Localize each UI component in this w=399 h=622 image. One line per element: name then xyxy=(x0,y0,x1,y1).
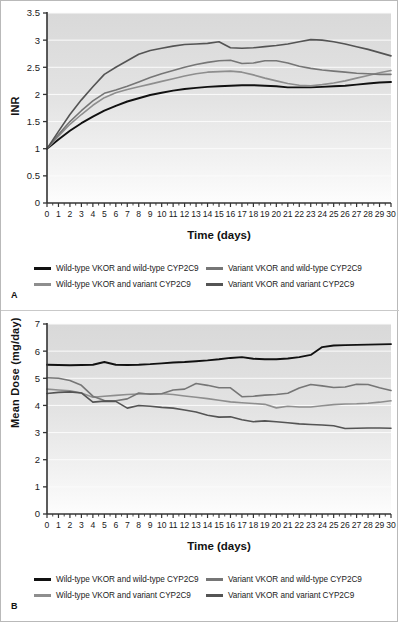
svg-text:18: 18 xyxy=(249,520,259,530)
svg-text:8: 8 xyxy=(136,520,141,530)
legend-item-2: Variant VKOR and wild-type CYP2C9 xyxy=(206,576,384,584)
svg-text:11: 11 xyxy=(169,520,178,530)
legend-label: Variant VKOR and variant CYP2C9 xyxy=(228,592,354,600)
panel-a-letter: A xyxy=(11,290,18,300)
svg-text:2: 2 xyxy=(35,89,40,100)
svg-text:30: 30 xyxy=(386,209,396,219)
svg-text:29: 29 xyxy=(375,520,385,530)
panel-divider xyxy=(1,310,399,311)
legend-swatch-icon xyxy=(34,283,51,286)
legend-swatch-icon xyxy=(206,267,223,270)
svg-text:17: 17 xyxy=(237,520,247,530)
svg-text:14: 14 xyxy=(203,520,213,530)
svg-text:19: 19 xyxy=(260,209,270,219)
svg-text:1: 1 xyxy=(56,520,61,530)
x-axis-title: Time (days) xyxy=(187,229,251,241)
svg-text:6: 6 xyxy=(113,520,118,530)
svg-text:5: 5 xyxy=(102,520,107,530)
legend-item-4: Variant VKOR and variant CYP2C9 xyxy=(206,592,384,600)
svg-text:21: 21 xyxy=(283,520,293,530)
y-axis-ticks: 00.511.522.533.5 xyxy=(27,7,47,208)
svg-text:3: 3 xyxy=(79,520,84,530)
svg-text:4: 4 xyxy=(90,209,95,219)
svg-text:23: 23 xyxy=(306,209,316,219)
legend-swatch-icon xyxy=(34,578,51,581)
svg-text:3: 3 xyxy=(79,209,84,219)
svg-text:10: 10 xyxy=(157,520,167,530)
x-axis-ticks: 0123456789101112131415161718192021222324… xyxy=(45,514,396,530)
svg-text:1.5: 1.5 xyxy=(27,116,40,127)
legend-item-2: Variant VKOR and wild-type CYP2C9 xyxy=(206,265,384,273)
svg-text:0.5: 0.5 xyxy=(27,170,40,181)
svg-text:3.5: 3.5 xyxy=(27,7,40,18)
x-axis-ticks: 0123456789101112131415161718192021222324… xyxy=(45,203,396,219)
panel-b-letter: B xyxy=(11,601,18,611)
svg-text:24: 24 xyxy=(317,520,327,530)
svg-text:8: 8 xyxy=(136,209,141,219)
svg-text:24: 24 xyxy=(317,209,327,219)
svg-text:9: 9 xyxy=(148,520,153,530)
chart-b-svg: 0123456701234567891011121314151617181920… xyxy=(1,312,399,562)
svg-text:0: 0 xyxy=(45,520,50,530)
panel-b: Mean Dose (mg/day) 012345670123456789101… xyxy=(1,312,399,622)
svg-text:15: 15 xyxy=(214,520,224,530)
legend-item-1: Wild-type VKOR and wild-type CYP2C9 xyxy=(34,265,206,273)
svg-text:25: 25 xyxy=(329,209,339,219)
x-axis-title: Time (days) xyxy=(187,540,251,552)
svg-text:10: 10 xyxy=(157,209,167,219)
legend-item-3: Wild-type VKOR and variant CYP2C9 xyxy=(34,281,206,289)
svg-text:27: 27 xyxy=(352,209,362,219)
legend-label: Wild-type VKOR and wild-type CYP2C9 xyxy=(56,265,199,273)
svg-text:30: 30 xyxy=(386,520,396,530)
svg-text:18: 18 xyxy=(249,209,259,219)
legend-swatch-icon xyxy=(34,267,51,270)
svg-text:19: 19 xyxy=(260,520,270,530)
svg-text:14: 14 xyxy=(203,209,213,219)
svg-text:20: 20 xyxy=(272,520,282,530)
legend-swatch-icon xyxy=(206,594,223,597)
svg-text:3: 3 xyxy=(35,427,40,438)
chart-b-legend: Wild-type VKOR and wild-type CYP2C9Varia… xyxy=(34,572,384,604)
svg-text:2: 2 xyxy=(68,520,73,530)
svg-text:2.5: 2.5 xyxy=(27,62,40,73)
svg-text:3: 3 xyxy=(35,35,40,46)
svg-text:4: 4 xyxy=(90,520,95,530)
svg-text:7: 7 xyxy=(125,209,130,219)
svg-text:5: 5 xyxy=(102,209,107,219)
svg-text:27: 27 xyxy=(352,520,362,530)
svg-text:26: 26 xyxy=(340,209,350,219)
y-axis-ticks: 01234567 xyxy=(35,318,47,519)
legend-label: Wild-type VKOR and wild-type CYP2C9 xyxy=(56,576,199,584)
svg-text:13: 13 xyxy=(191,520,201,530)
svg-text:7: 7 xyxy=(125,520,130,530)
svg-text:5: 5 xyxy=(35,373,40,384)
chart-a-plot-block: INR 00.511.522.533.501234567891011121314… xyxy=(1,1,399,251)
svg-text:0: 0 xyxy=(35,197,40,208)
svg-text:2: 2 xyxy=(35,454,40,465)
svg-text:20: 20 xyxy=(272,209,282,219)
chart-b-plot-block: Mean Dose (mg/day) 012345670123456789101… xyxy=(1,312,399,562)
svg-text:25: 25 xyxy=(329,520,339,530)
svg-text:26: 26 xyxy=(340,520,350,530)
svg-text:17: 17 xyxy=(237,209,247,219)
legend-swatch-icon xyxy=(206,283,223,286)
svg-text:9: 9 xyxy=(148,209,153,219)
svg-text:23: 23 xyxy=(306,520,316,530)
chart-a-svg: 00.511.522.533.5012345678910111213141516… xyxy=(1,1,399,251)
svg-text:22: 22 xyxy=(294,520,304,530)
legend-label: Wild-type VKOR and variant CYP2C9 xyxy=(56,281,191,289)
svg-text:1: 1 xyxy=(35,143,40,154)
legend-label: Wild-type VKOR and variant CYP2C9 xyxy=(56,592,191,600)
svg-text:11: 11 xyxy=(169,209,178,219)
svg-text:28: 28 xyxy=(363,209,373,219)
svg-text:12: 12 xyxy=(180,209,190,219)
svg-text:16: 16 xyxy=(226,209,236,219)
svg-text:12: 12 xyxy=(180,520,190,530)
svg-text:13: 13 xyxy=(191,209,201,219)
svg-text:4: 4 xyxy=(35,400,40,411)
svg-text:6: 6 xyxy=(113,209,118,219)
svg-text:29: 29 xyxy=(375,209,385,219)
svg-text:15: 15 xyxy=(214,209,224,219)
legend-item-1: Wild-type VKOR and wild-type CYP2C9 xyxy=(34,576,206,584)
